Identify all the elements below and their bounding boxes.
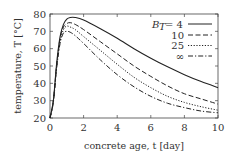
series-line — [50, 23, 218, 118]
x-tick-label: 10 — [212, 122, 225, 133]
x-tick-label: 0 — [47, 122, 53, 133]
temperature-chart: 024681020304050607080 BT= 41025∞ concret… — [0, 0, 236, 160]
y-tick-label: 30 — [33, 95, 46, 106]
x-axis-label: concrete age, t [day] — [84, 140, 184, 151]
legend-label: 10 — [171, 30, 184, 41]
x-tick-label: 8 — [181, 122, 187, 133]
y-tick-label: 60 — [33, 43, 46, 54]
legend-label: = 4 — [165, 19, 183, 30]
x-tick-label: 6 — [148, 122, 154, 133]
x-tick-label: 2 — [80, 122, 86, 133]
legend-label: 25 — [171, 40, 184, 51]
legend-label: ∞ — [176, 51, 184, 62]
x-tick-label: 4 — [114, 122, 120, 133]
y-tick-label: 80 — [33, 9, 46, 20]
y-axis-label: temperature, T [°C] — [12, 18, 23, 113]
series-line — [50, 26, 218, 118]
y-tick-label: 50 — [33, 61, 46, 72]
y-tick-label: 40 — [33, 78, 46, 89]
legend: BT= 41025∞ — [151, 19, 212, 62]
data-series — [50, 17, 218, 118]
y-tick-label: 70 — [33, 26, 46, 37]
series-line — [50, 17, 218, 118]
y-tick-label: 20 — [33, 113, 46, 124]
